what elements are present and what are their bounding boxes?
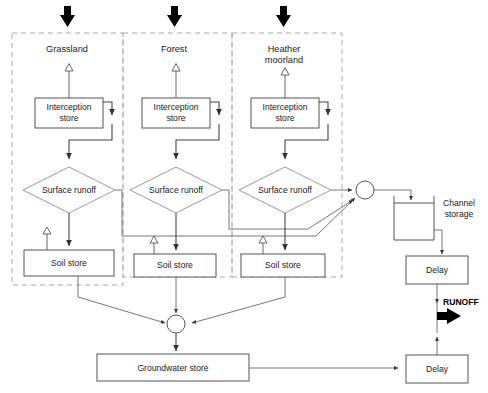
soil-to-groundwater-flows — [78, 276, 285, 323]
groundwater-junction — [167, 315, 185, 333]
precipitation-arrow-heather — [276, 6, 291, 27]
column-label-heather-line2: moorland — [265, 55, 303, 65]
groundwater-store[interactable]: Groundwater store — [97, 354, 249, 381]
interception-store-grassland-label-line1: Interception — [47, 102, 92, 112]
soil-store-grassland-label: Soil store — [51, 258, 87, 268]
groundwater-store-label: Groundwater store — [137, 363, 208, 373]
soil-stores: Soil store Soil store Soil store — [24, 250, 325, 277]
interception-store-grassland[interactable]: Interception store — [35, 98, 103, 128]
evaporation-arrow-heather-soil — [259, 236, 267, 256]
interception-store-heather[interactable]: Interception store — [251, 98, 319, 128]
runoff-label: RUNOFF — [443, 297, 479, 307]
evaporation-arrow-grassland-soil — [43, 227, 51, 252]
soil-store-forest[interactable]: Soil store — [134, 254, 216, 277]
evaporation-arrow-heather-interception — [281, 68, 289, 101]
soil-store-grassland[interactable]: Soil store — [24, 250, 114, 276]
evaporation-arrows-interception — [65, 64, 289, 101]
surface-runoff-forest-label: Surface runoff — [149, 185, 203, 195]
evaporation-arrow-forest-soil — [150, 236, 158, 256]
surface-runoff-heather[interactable]: Surface runoff — [239, 167, 331, 213]
interception-stores: Interception store Interception store In… — [35, 98, 319, 128]
interception-store-forest[interactable]: Interception store — [142, 98, 210, 128]
surface-runoff-nodes: Surface runoff Surface runoff Surface ru… — [23, 167, 331, 213]
dashed-group-heather — [232, 33, 342, 277]
column-label-grassland: Grassland — [46, 44, 88, 54]
column-label-forest: Forest — [161, 44, 187, 54]
soil-store-heather[interactable]: Soil store — [241, 254, 325, 277]
surface-runoff-heather-label: Surface runoff — [258, 185, 312, 195]
junction-to-channel-storage-flow — [374, 190, 411, 200]
delay-groundwater-label: Delay — [426, 364, 449, 374]
interception-store-heather-label-line2: store — [275, 113, 294, 123]
delay-channel[interactable]: Delay — [406, 256, 468, 284]
surface-runoff-grassland-label: Surface runoff — [42, 185, 96, 195]
precipitation-inputs — [60, 6, 291, 27]
hydrological-model-diagram: Grassland Forest Heather moorland Interc… — [0, 0, 488, 393]
column-headers: Grassland Forest Heather moorland — [46, 44, 303, 65]
soil-store-heather-label: Soil store — [265, 260, 301, 270]
column-label-heather-line1: Heather — [268, 44, 301, 54]
runoff-arrow-icon — [437, 308, 461, 324]
surface-runoff-grassland[interactable]: Surface runoff — [23, 167, 115, 213]
interception-store-grassland-label-line2: store — [59, 113, 78, 123]
soil-store-forest-label: Soil store — [157, 260, 193, 270]
channel-storage-label-line1: Channel — [443, 198, 475, 208]
surface-runoff-to-soil — [69, 213, 285, 250]
interception-store-forest-label-line1: Interception — [154, 102, 199, 112]
channel-to-delay-flow — [434, 230, 442, 254]
interception-store-forest-label-line2: store — [166, 113, 185, 123]
delay-groundwater[interactable]: Delay — [406, 355, 468, 383]
channel-junction — [356, 181, 374, 199]
evaporation-arrow-forest-interception — [172, 64, 180, 101]
surface-runoff-forest[interactable]: Surface runoff — [130, 167, 222, 213]
channel-storage[interactable]: Channel storage — [394, 196, 475, 240]
runoff-output: RUNOFF — [437, 297, 479, 324]
evaporation-arrow-grassland-interception — [65, 64, 73, 101]
delay-channel-label: Delay — [426, 265, 449, 275]
interception-store-heather-label-line1: Interception — [263, 102, 308, 112]
precipitation-arrow-forest — [167, 6, 182, 27]
precipitation-arrow-grassland — [60, 6, 75, 27]
channel-storage-label-line2: storage — [445, 209, 474, 219]
